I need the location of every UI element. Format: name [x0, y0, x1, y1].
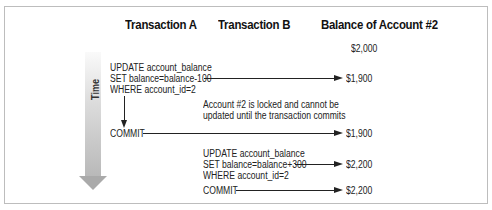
down-arrow-head-icon — [121, 120, 127, 128]
txn-a-commit-arrow-line — [143, 133, 337, 134]
txn-b-update-arrow-line — [295, 164, 337, 165]
lock-note-line-2: updated until the transaction commits — [203, 110, 345, 121]
txn-a-update-line-2: SET balance=balance-100 — [110, 73, 211, 84]
txn-b-commit-arrow-line — [236, 190, 337, 191]
balance-initial: $2,000 — [351, 43, 377, 54]
txn-a-update-line-1: UPDATE account_balance — [110, 62, 212, 73]
time-label: Time — [90, 79, 101, 101]
arrow-head-icon — [334, 161, 343, 167]
txn-b-commit: COMMIT — [203, 185, 238, 196]
txn-b-update-line-1: UPDATE account_balance — [203, 148, 305, 159]
header-transaction-b: Transaction B — [218, 17, 290, 32]
header-transaction-a: Transaction A — [125, 17, 197, 32]
time-arrow-shaft — [85, 52, 101, 178]
arrow-head-icon — [334, 130, 343, 136]
balance-after-b-update: $2,200 — [346, 159, 372, 170]
txn-a-commit: COMMIT — [110, 128, 145, 139]
txn-b-update-line-3: WHERE account_id=2 — [203, 170, 289, 181]
arrow-head-icon — [334, 75, 343, 81]
balance-after-a-update: $1,900 — [346, 73, 372, 84]
balance-after-a-commit: $1,900 — [346, 128, 372, 139]
txn-b-update-line-2: SET balance=balance+300 — [203, 159, 307, 170]
txn-a-update-arrow-line — [204, 78, 337, 79]
lock-note-line-1: Account #2 is locked and cannot be — [203, 99, 339, 110]
balance-after-b-commit: $2,200 — [346, 185, 372, 196]
txn-a-wait-line — [124, 96, 125, 122]
arrow-head-icon — [334, 187, 343, 193]
txn-a-update-line-3: WHERE account_id=2 — [110, 84, 196, 95]
header-balance: Balance of Account #2 — [321, 17, 438, 32]
time-arrow-head-icon — [79, 176, 107, 190]
